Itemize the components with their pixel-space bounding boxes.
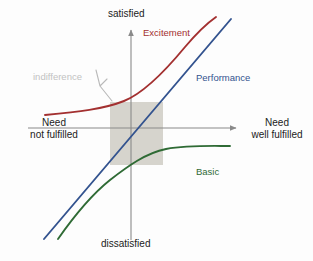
- indifference-zone-rect: [110, 102, 163, 165]
- axis-label-dissatisfied: dissatisfied: [101, 238, 150, 250]
- indifference-pointer: [96, 70, 112, 101]
- series-label-basic: Basic: [196, 166, 219, 178]
- annotation-label-indifference: indifference: [33, 71, 82, 83]
- axis-label-need-not-fulfilled: Need not fulfilled: [14, 117, 94, 141]
- series-label-performance: Performance: [196, 72, 250, 84]
- need-well-line2: well fulfilled: [243, 129, 311, 141]
- axis-label-need-well-fulfilled: Need well fulfilled: [243, 117, 311, 141]
- need-not-line1: Need: [14, 117, 94, 129]
- series-label-excitement: Excitement: [143, 27, 190, 39]
- need-well-line1: Need: [243, 117, 311, 129]
- axis-label-satisfied: satisfied: [108, 8, 145, 20]
- kano-model-diagram: satisfied dissatisfied Need not fulfille…: [0, 0, 313, 261]
- need-not-line2: not fulfilled: [14, 129, 94, 141]
